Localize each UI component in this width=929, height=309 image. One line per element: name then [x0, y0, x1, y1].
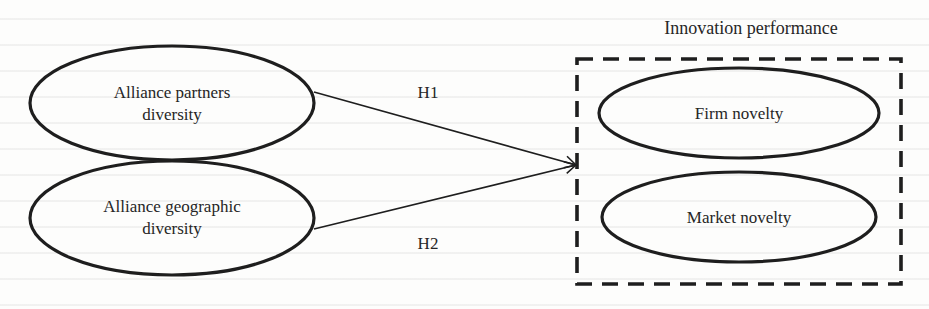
h2-arrow — [314, 165, 576, 229]
diagram-graphics — [0, 0, 929, 309]
h1-arrow — [314, 92, 576, 165]
partners-diversity-line1: Alliance partners — [114, 82, 231, 104]
partners-diversity-label: Alliance partners diversity — [114, 82, 231, 126]
research-model-diagram: Innovation performance Alliance partners… — [0, 0, 929, 309]
h1-label: H1 — [418, 82, 439, 104]
innovation-performance-title: Innovation performance — [664, 17, 837, 39]
partners-diversity-line2: diversity — [114, 104, 231, 126]
firm-novelty-label: Firm novelty — [695, 103, 783, 125]
h2-label: H2 — [418, 233, 439, 255]
geographic-diversity-line1: Alliance geographic — [103, 196, 240, 218]
geographic-diversity-label: Alliance geographic diversity — [103, 196, 240, 240]
geographic-diversity-line2: diversity — [103, 218, 240, 240]
market-novelty-label: Market novelty — [687, 207, 791, 229]
